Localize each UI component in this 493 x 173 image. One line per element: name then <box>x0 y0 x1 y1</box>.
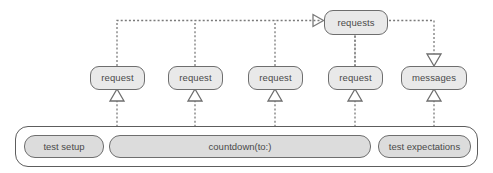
request-node-4-label: request <box>339 73 371 83</box>
diagram-canvas: requests request request request request… <box>0 0 493 173</box>
request-node-1-label: request <box>101 73 133 83</box>
arrowhead-up-request-1 <box>110 89 124 101</box>
edge-request-1-to-requests <box>117 21 321 67</box>
arrowhead-up-messages <box>427 89 441 101</box>
edge-requests-to-messages <box>389 21 434 55</box>
activation-test-setup-label: test setup <box>43 141 84 152</box>
request-node-4[interactable]: request <box>328 66 383 90</box>
activation-test-setup[interactable]: test setup <box>24 135 104 158</box>
arrowhead-up-request-2 <box>188 89 202 101</box>
arrowhead-up-request-3 <box>268 89 282 101</box>
request-node-2-label: request <box>179 73 211 83</box>
arrowhead-down-messages <box>427 54 441 66</box>
requests-node-label: requests <box>337 17 374 27</box>
arrowhead-up-request-4 <box>348 89 362 101</box>
request-node-3-label: request <box>259 73 291 83</box>
activation-test-expectations-label: test expectations <box>389 141 460 152</box>
request-node-1[interactable]: request <box>90 66 145 90</box>
activation-test-expectations[interactable]: test expectations <box>378 135 471 158</box>
requests-node[interactable]: requests <box>324 10 388 35</box>
test-lifeline: test setup countdown(to:) test expectati… <box>15 126 478 167</box>
request-node-3[interactable]: request <box>248 66 303 90</box>
messages-node-label: messages <box>412 73 456 83</box>
activation-countdown-label: countdown(to:) <box>209 141 272 152</box>
activation-countdown[interactable]: countdown(to:) <box>109 135 371 158</box>
messages-node[interactable]: messages <box>401 66 467 90</box>
request-node-2[interactable]: request <box>168 66 223 90</box>
